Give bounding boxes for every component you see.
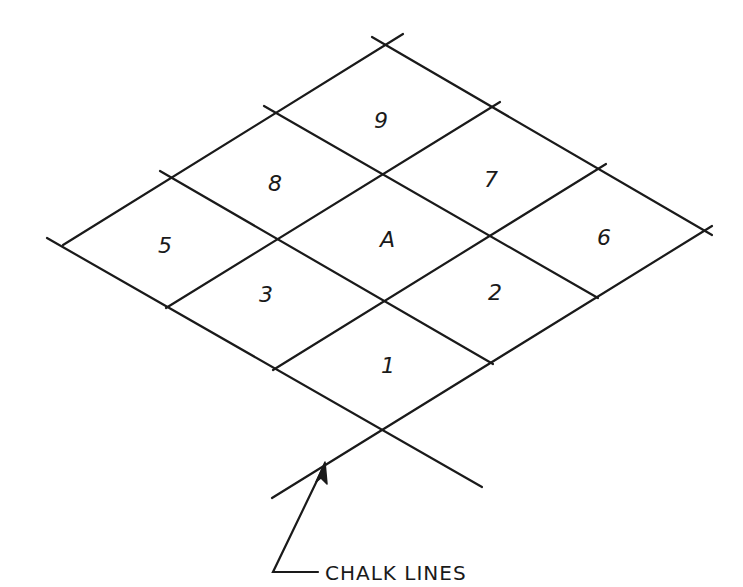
cell-label-3: 3	[259, 282, 273, 307]
grid-line-row-2	[160, 171, 493, 364]
cell-label-5: 5	[158, 233, 172, 258]
cell-label-1: 1	[381, 353, 395, 378]
cell-label-7: 7	[484, 167, 498, 192]
cell-label-8: 8	[268, 171, 282, 196]
down-left-grid-lines	[63, 34, 712, 498]
cell-label-6: 6	[597, 225, 611, 250]
arrow-head-icon	[316, 462, 327, 484]
grid-line-col-1	[166, 102, 500, 308]
grid-line-bottom-right-edge-extended	[272, 226, 712, 498]
grid-line-row-1	[264, 106, 598, 298]
grid-line-col-2	[273, 164, 606, 370]
cell-labels: 9 7 6 8 A 2 5 3 1	[158, 108, 611, 378]
grid-line-top-right-edge	[372, 37, 712, 235]
chalk-line-grid-diagram: 9 7 6 8 A 2 5 3 1 CHALK LINES	[0, 0, 743, 587]
grid-line-bottom-left-edge-extended	[47, 238, 482, 487]
cell-label-A: A	[378, 227, 395, 252]
chalk-lines-caption: CHALK LINES	[325, 561, 467, 585]
cell-label-2: 2	[488, 280, 502, 305]
cell-label-9: 9	[374, 108, 388, 133]
down-right-grid-lines	[47, 37, 712, 487]
